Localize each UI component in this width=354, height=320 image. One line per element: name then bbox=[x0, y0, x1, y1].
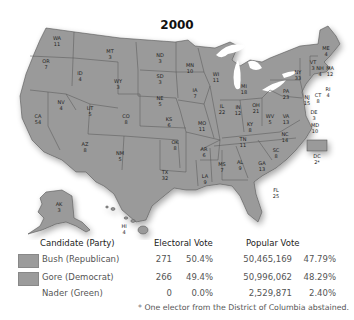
svg-text:2*: 2* bbox=[314, 159, 320, 165]
candidate-name: Gore (Democrat) bbox=[42, 272, 114, 282]
candidate-name: Bush (Republican) bbox=[42, 254, 119, 264]
svg-text:10: 10 bbox=[312, 128, 318, 134]
svg-text:8: 8 bbox=[248, 127, 251, 133]
footnote: * One elector from the District of Colum… bbox=[138, 303, 349, 312]
svg-text:3: 3 bbox=[311, 65, 314, 71]
svg-text:10: 10 bbox=[187, 68, 193, 74]
svg-text:8: 8 bbox=[316, 98, 319, 104]
svg-text:13: 13 bbox=[259, 166, 265, 172]
svg-text:13: 13 bbox=[283, 119, 289, 125]
gore-swatch bbox=[18, 272, 39, 286]
electoral-pct: 49.4% bbox=[180, 272, 213, 282]
svg-text:15: 15 bbox=[304, 100, 310, 106]
contiguous-us-shape bbox=[20, 26, 340, 222]
svg-text:4: 4 bbox=[318, 71, 321, 77]
svg-text:9: 9 bbox=[203, 179, 206, 185]
svg-text:12: 12 bbox=[235, 110, 241, 116]
electoral-votes: 271 bbox=[150, 254, 172, 264]
popular-pct: 48.29% bbox=[302, 272, 336, 282]
svg-text:18: 18 bbox=[241, 89, 247, 95]
svg-text:7: 7 bbox=[220, 167, 223, 173]
svg-text:7: 7 bbox=[193, 93, 196, 99]
svg-text:5: 5 bbox=[88, 111, 91, 117]
svg-text:12: 12 bbox=[327, 71, 333, 77]
svg-text:23: 23 bbox=[283, 94, 289, 100]
svg-text:6: 6 bbox=[167, 122, 170, 128]
svg-text:5: 5 bbox=[158, 101, 161, 107]
svg-text:11: 11 bbox=[213, 77, 219, 83]
popular-pct: 2.40% bbox=[302, 288, 336, 298]
svg-text:25: 25 bbox=[273, 193, 279, 199]
popular-votes: 50,996,062 bbox=[240, 272, 292, 282]
svg-text:33: 33 bbox=[295, 75, 301, 81]
svg-text:4: 4 bbox=[324, 51, 327, 57]
svg-text:11: 11 bbox=[199, 126, 205, 132]
svg-text:3: 3 bbox=[116, 84, 119, 90]
svg-text:7: 7 bbox=[44, 64, 47, 70]
electoral-votes: 0 bbox=[150, 288, 172, 298]
svg-text:3: 3 bbox=[108, 54, 111, 60]
svg-text:3: 3 bbox=[312, 115, 315, 121]
svg-text:8: 8 bbox=[274, 153, 277, 159]
svg-text:9: 9 bbox=[238, 165, 241, 171]
svg-text:5: 5 bbox=[268, 119, 271, 125]
svg-text:21: 21 bbox=[253, 108, 259, 114]
svg-text:8: 8 bbox=[83, 147, 86, 153]
header-popular: Popular Vote bbox=[246, 238, 300, 248]
svg-text:8: 8 bbox=[173, 145, 176, 151]
svg-text:4: 4 bbox=[78, 76, 81, 82]
candidate-name: Nader (Green) bbox=[42, 288, 103, 298]
electoral-votes: 266 bbox=[150, 272, 172, 282]
popular-votes: 50,465,169 bbox=[240, 254, 292, 264]
svg-text:3: 3 bbox=[158, 79, 161, 85]
electoral-pct: 0.0% bbox=[180, 288, 213, 298]
svg-text:4: 4 bbox=[59, 105, 62, 111]
svg-text:4: 4 bbox=[326, 92, 329, 98]
svg-text:11: 11 bbox=[54, 41, 60, 47]
us-electoral-map: WA11 OR7 CA54 ID4 NV4 MT3 WY3 UT5 AZ8 CO… bbox=[0, 0, 354, 240]
legend-row-bush: Bush (Republican) 271 50.4% 50,465,169 4… bbox=[0, 254, 354, 268]
svg-text:3: 3 bbox=[57, 207, 60, 213]
popular-votes: 2,529,871 bbox=[240, 288, 292, 298]
svg-text:22: 22 bbox=[219, 109, 225, 115]
legend-row-gore: Gore (Democrat) 266 49.4% 50,996,062 48.… bbox=[0, 272, 354, 286]
svg-text:6: 6 bbox=[202, 152, 205, 158]
svg-text:3: 3 bbox=[158, 58, 161, 64]
hawaii-island bbox=[138, 226, 148, 234]
legend-row-nader: Nader (Green) 0 0.0% 2,529,871 2.40% bbox=[0, 288, 354, 302]
svg-text:11: 11 bbox=[240, 142, 246, 148]
svg-text:54: 54 bbox=[35, 119, 41, 125]
header-candidate: Candidate (Party) bbox=[40, 238, 115, 248]
svg-text:32: 32 bbox=[162, 175, 168, 181]
electoral-pct: 50.4% bbox=[180, 254, 213, 264]
results-legend: Candidate (Party) Electoral Vote Popular… bbox=[0, 235, 354, 320]
dc-box bbox=[307, 140, 327, 151]
bush-swatch bbox=[18, 254, 39, 268]
svg-text:14: 14 bbox=[282, 137, 288, 143]
svg-text:5: 5 bbox=[118, 156, 121, 162]
svg-text:8: 8 bbox=[124, 119, 127, 125]
header-electoral: Electoral Vote bbox=[154, 238, 213, 248]
popular-pct: 47.79% bbox=[302, 254, 336, 264]
